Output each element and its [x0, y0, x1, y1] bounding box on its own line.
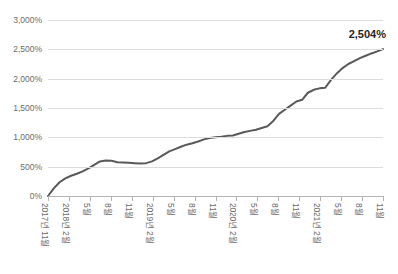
x-axis-tick — [69, 196, 70, 201]
x-axis-tick — [299, 196, 300, 201]
x-axis-tick — [195, 196, 196, 201]
x-axis-tick-label: 2020년 2월 — [228, 203, 240, 243]
y-axis-tick-label: 2,000% — [0, 74, 42, 84]
x-axis-tick-label: 8월 — [103, 203, 115, 215]
x-axis-tick-label: 5월 — [333, 203, 345, 215]
y-axis-tick-label: 500% — [0, 162, 42, 172]
x-axis-tick — [383, 196, 384, 201]
gridline — [48, 79, 383, 80]
gridline — [48, 137, 383, 138]
x-axis-tick — [236, 196, 237, 201]
x-axis-tick — [278, 196, 279, 201]
x-axis-tick — [48, 196, 49, 201]
x-axis-tick — [320, 196, 321, 201]
series-polyline — [48, 49, 383, 196]
x-axis-tick-label: 2021년 2월 — [312, 203, 324, 243]
x-axis-tick-label: 2019년 2월 — [145, 203, 157, 243]
y-axis-tick-label: 2,500% — [0, 44, 42, 54]
x-axis-tick-label: 8월 — [354, 203, 366, 215]
x-axis-tick-label: 11월 — [291, 203, 303, 219]
x-axis-tick — [153, 196, 154, 201]
y-axis-tick-label: 0% — [0, 191, 42, 201]
chart-title — [48, 0, 348, 4]
x-axis-tick — [90, 196, 91, 201]
gridline — [48, 20, 383, 21]
x-axis-tick-label: 8월 — [187, 203, 199, 215]
x-axis-tick — [216, 196, 217, 201]
y-axis-tick-label: 1,000% — [0, 132, 42, 142]
x-axis-tick — [132, 196, 133, 201]
chart-container: 0%500%1,000%1,500%2,000%2,500%3,000% 201… — [0, 0, 398, 274]
end-value-label: 2,504% — [349, 28, 386, 40]
x-axis-tick — [362, 196, 363, 201]
gridline — [48, 108, 383, 109]
y-axis-tick-label: 1,500% — [0, 103, 42, 113]
x-axis-tick — [111, 196, 112, 201]
gridline — [48, 167, 383, 168]
x-axis-tick-label: 5월 — [82, 203, 94, 215]
x-axis-tick-label: 5월 — [249, 203, 261, 215]
y-axis-tick-label: 3,000% — [0, 15, 42, 25]
x-axis-tick-label: 8월 — [270, 203, 282, 215]
x-axis-tick-label: 2018년 2월 — [61, 203, 73, 243]
x-axis-tick — [257, 196, 258, 201]
x-axis-tick-label: 11월 — [208, 203, 220, 219]
x-axis-tick-label: 2017년 11월 — [40, 203, 52, 247]
x-axis-tick-label: 11월 — [124, 203, 136, 219]
x-axis-tick — [341, 196, 342, 201]
x-axis-tick-label: 5월 — [166, 203, 178, 215]
x-axis-tick — [174, 196, 175, 201]
x-axis-tick-label: 11월 — [375, 203, 387, 219]
gridline — [48, 49, 383, 50]
plot-area — [48, 20, 383, 196]
